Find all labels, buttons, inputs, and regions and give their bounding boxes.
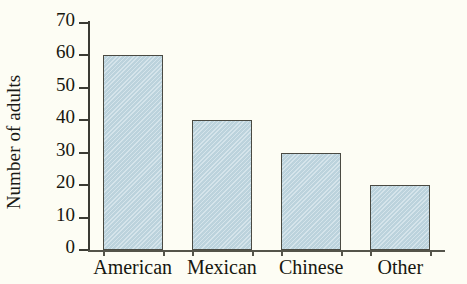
y-tick-mark — [79, 22, 88, 24]
y-tick-mark — [79, 184, 88, 186]
bar — [103, 55, 163, 250]
bar — [370, 185, 430, 250]
y-tick-mark — [79, 54, 88, 56]
y-tick-label: 60 — [56, 42, 75, 61]
y-tick-label: 40 — [56, 107, 75, 126]
y-axis-title-label: Number of adults — [3, 75, 25, 210]
bar-chart: Number of adults 706050403020100 America… — [0, 0, 467, 284]
x-axis-line — [88, 250, 445, 252]
x-axis-category-label: American — [88, 256, 177, 278]
y-tick-mark — [79, 249, 88, 251]
y-tick-label: 20 — [56, 172, 75, 191]
x-axis-category-label: Other — [356, 256, 445, 278]
y-axis-title: Number of adults — [0, 0, 40, 284]
y-tick-mark — [79, 152, 88, 154]
y-tick-label: 70 — [56, 10, 75, 29]
bar — [281, 153, 341, 250]
y-tick-mark — [79, 119, 88, 121]
x-axis-category-label: Mexican — [177, 256, 266, 278]
y-tick-label: 50 — [56, 75, 75, 94]
bar — [192, 120, 252, 250]
y-tick-label: 30 — [56, 140, 75, 159]
plot-area — [88, 23, 445, 250]
y-tick-mark — [79, 217, 88, 219]
y-tick-label: 10 — [56, 205, 75, 224]
y-tick-mark — [79, 87, 88, 89]
x-axis-category-label: Chinese — [267, 256, 356, 278]
y-tick-label: 0 — [66, 237, 76, 256]
